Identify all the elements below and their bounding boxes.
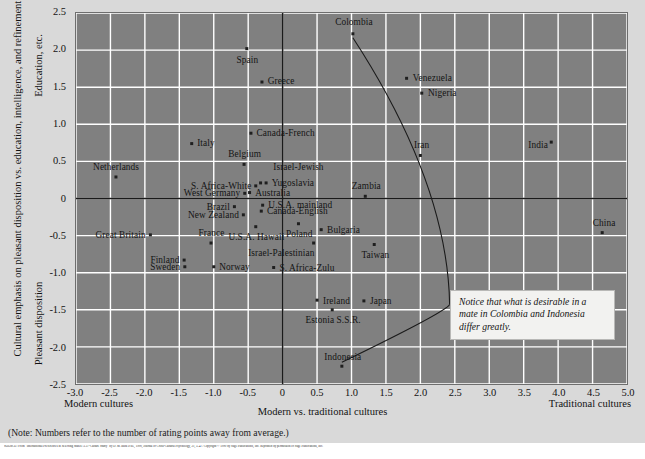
point-label: U.S.A. Hawaii	[228, 233, 284, 243]
point-label: Poland	[286, 230, 312, 240]
point-label: Indonesia	[324, 353, 361, 363]
figure-note: (Note: Numbers refer to the number of ra…	[8, 427, 289, 438]
point-label: Canada-English	[267, 207, 328, 217]
x-tick-label: -0.5	[240, 388, 257, 399]
x-tick-label: 1.0	[345, 388, 358, 399]
x-tick-label: 2.5	[449, 388, 462, 399]
y-tick-label: 1.0	[53, 119, 66, 130]
y-tick-label: -1.0	[49, 268, 66, 279]
x-axis-right-label: Traditional cultures	[549, 398, 631, 409]
point-label: India	[528, 141, 548, 151]
x-tick-label: -2.0	[136, 388, 153, 399]
y-tick-label: -0.5	[49, 231, 66, 242]
x-tick-label: 3.0	[483, 388, 496, 399]
point-label: Spain	[237, 56, 259, 66]
point-label: Nigeria	[428, 89, 457, 99]
y-axis-bottom-label: Pleasant disposition	[33, 264, 44, 384]
point-label: Greece	[268, 78, 295, 88]
x-tick-label: 5.0	[621, 388, 634, 399]
x-tick-label: -3.0	[67, 388, 84, 399]
source-strip: SOURCE: From “International Preferences …	[0, 443, 645, 459]
point-label: S. Africa-Zulu	[279, 264, 334, 274]
x-tick-label: 4.0	[552, 388, 565, 399]
x-tick-label: 0	[280, 388, 285, 399]
x-tick-label: 3.5	[518, 388, 531, 399]
point-label: Japan	[370, 298, 392, 308]
point-label: Australia	[255, 189, 290, 199]
point-label: Taiwan	[361, 251, 389, 261]
point-label: Estonia S.S.R.	[306, 317, 361, 327]
point-label: Venezuela	[413, 74, 452, 84]
y-tick-label: -1.5	[49, 305, 66, 316]
chart-figure: 2.52.01.51.00.50-0.5-1.0-1.5-2.0-2.5 Cul…	[0, 0, 645, 459]
point-label: Netherlands	[93, 163, 139, 173]
x-tick-label: 0.5	[310, 388, 323, 399]
point-label: New Zealand	[188, 211, 239, 221]
point-label: France	[199, 229, 225, 239]
point-label: Colombia	[335, 18, 372, 28]
point-label: Ireland	[323, 297, 350, 307]
y-axis-top-label: Education, etc.	[33, 6, 44, 126]
point-label: Bulgaria	[327, 226, 360, 236]
x-tick-label: -1.0	[205, 388, 222, 399]
source-credit: SOURCE: From “International Preferences …	[4, 445, 644, 449]
x-tick-label: 1.5	[380, 388, 393, 399]
x-tick-label: -1.5	[170, 388, 187, 399]
annotation-callout: Notice that what is desirable in a mate …	[450, 290, 615, 340]
point-label: Great Britain	[96, 231, 146, 241]
point-label: Italy	[197, 139, 215, 149]
point-label: Norway	[219, 263, 250, 273]
point-label: Iran	[414, 141, 429, 151]
point-label: Israel-Jewish	[273, 163, 323, 173]
y-tick-label: 0.5	[53, 156, 66, 167]
y-tick-label: 2.0	[53, 44, 66, 55]
x-tick-label: -2.5	[101, 388, 118, 399]
y-tick-label: 1.5	[53, 82, 66, 93]
y-axis-title: Cultural emphasis on pleasant dispositio…	[12, 27, 23, 357]
point-label: Israel-Palestinian	[248, 249, 314, 259]
point-label: West Germany	[184, 189, 240, 199]
x-tick-label: 4.5	[587, 388, 600, 399]
point-label: China	[593, 219, 616, 229]
point-label: Zambia	[352, 182, 381, 192]
y-tick-label: -2.0	[49, 343, 66, 354]
point-label: Canada-French	[257, 129, 315, 139]
x-tick-label: 2.0	[414, 388, 427, 399]
y-tick-label: 2.5	[53, 7, 66, 18]
point-label: Sweden	[150, 263, 180, 273]
y-tick-label: 0	[61, 194, 66, 205]
point-label: Belgium	[228, 150, 261, 160]
